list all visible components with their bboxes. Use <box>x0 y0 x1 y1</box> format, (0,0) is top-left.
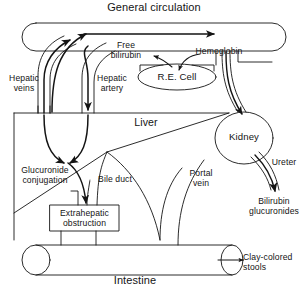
liver-ledge <box>71 191 78 205</box>
portal-vein-label: Portal vein <box>180 168 222 188</box>
intestine-label: Intestine <box>60 275 210 285</box>
bilirubin-glucuronides-label: Bilirubin glucuronides <box>240 196 308 216</box>
obstruction-to-intestine <box>61 231 96 245</box>
bile-duct-label: Bile duct <box>89 174 141 184</box>
glucuronide-conjugation-arrow <box>44 115 64 163</box>
glucuronide-conjugation-label: Glucuronide conjugation <box>10 165 80 185</box>
circulation-flow-arrow-left <box>52 34 86 112</box>
ureter-label: Ureter <box>262 157 306 167</box>
hemoglobin-arrow <box>179 54 200 70</box>
general-circulation-label: General circulation <box>0 2 308 12</box>
kidney-label: Kidney <box>213 131 275 142</box>
intestine-cylinder <box>22 245 243 275</box>
hepatic-artery-label: Hepatic artery <box>90 73 134 93</box>
clay-colored-stools-label: Clay-colored stools <box>243 252 307 272</box>
liver-label: Liver <box>118 116 174 128</box>
glucuronide-conjugation-arrow-2 <box>70 115 88 163</box>
hepatic-artery-flow-arrow <box>84 46 88 110</box>
hepatic-veins-label: Hepatic veins <box>3 73 45 93</box>
diagram-canvas: General circulation Free bilirubin Hemog… <box>0 0 308 290</box>
extrahepatic-obstruction-label: Extrahepatic obstruction <box>50 208 119 228</box>
hemoglobin-label: Hemoglobin <box>190 46 248 56</box>
free-bilirubin-label: Free bilirubin <box>97 40 155 60</box>
re-cell-label: R.E. Cell <box>143 71 211 82</box>
